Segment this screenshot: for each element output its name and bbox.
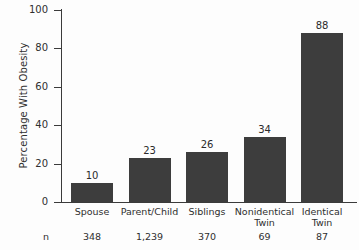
y-axis-tick-label: 40 <box>0 120 48 130</box>
bar-value-label: 10 <box>62 170 122 181</box>
y-axis-tick-mark <box>54 164 61 165</box>
x-axis-category-line: Twin <box>287 217 357 228</box>
bar-value-label: 26 <box>177 139 237 150</box>
y-axis-tick-mark <box>54 48 61 49</box>
y-axis-tick-label: 80 <box>0 43 48 53</box>
sample-size-row-label: n <box>36 231 56 242</box>
y-axis-tick-label: 0 <box>0 197 48 207</box>
y-axis-tick-mark <box>54 125 61 126</box>
bar <box>71 183 113 202</box>
bar-value-label: 34 <box>235 124 295 135</box>
y-axis-tick-mark <box>54 87 61 88</box>
y-axis-tick-mark <box>54 202 61 203</box>
bar <box>244 137 286 202</box>
bar <box>129 158 171 202</box>
bar <box>301 33 343 202</box>
x-axis-category-label: IdenticalTwin <box>287 206 357 228</box>
y-axis-tick-label: 60 <box>0 82 48 92</box>
x-axis-category-line: Identical <box>287 206 357 217</box>
bar-value-label: 88 <box>292 20 352 31</box>
obesity-bar-chart: Percentage With Obesity 020406080100 102… <box>0 0 359 250</box>
bar-value-label: 23 <box>120 145 180 156</box>
x-axis-line <box>61 202 357 203</box>
bar <box>186 152 228 202</box>
y-axis-tick-mark <box>54 10 61 11</box>
y-axis-tick-label: 100 <box>0 5 48 15</box>
y-axis-tick-label: 20 <box>0 159 48 169</box>
sample-size-value: 87 <box>287 231 357 242</box>
